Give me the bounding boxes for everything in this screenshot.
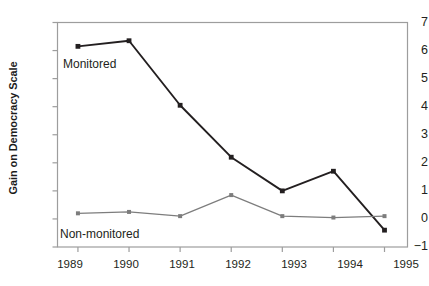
data-point-1994: [331, 216, 335, 220]
series-monitored: [76, 38, 387, 232]
data-point-1991: [178, 103, 183, 108]
data-point-1990: [127, 38, 132, 43]
data-point-1995: [383, 214, 387, 218]
data-point-1994: [331, 169, 336, 174]
data-point-1992: [229, 193, 233, 197]
x-tick-marks: [78, 247, 385, 252]
data-point-1990: [127, 210, 131, 214]
y-tick-marks: [53, 23, 58, 248]
data-point-1993: [280, 214, 284, 218]
data-point-1989: [76, 44, 81, 49]
series-line: [78, 41, 385, 230]
data-point-1991: [178, 214, 182, 218]
series-non-monitored: [76, 193, 387, 219]
data-point-1995: [382, 228, 387, 233]
data-point-1989: [76, 211, 80, 215]
data-point-1992: [229, 155, 234, 160]
axis-frame: [58, 23, 408, 248]
data-point-1993: [280, 188, 285, 193]
data-series-layer: [76, 38, 387, 232]
series-line: [78, 195, 385, 217]
